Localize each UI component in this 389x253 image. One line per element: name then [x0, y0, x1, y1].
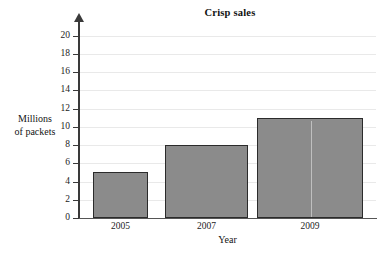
- y-axis-tick: [73, 127, 79, 128]
- chart-figure: Crisp sales 02468101214161820 2005200720…: [0, 0, 389, 253]
- y-axis-tick-label: 4: [48, 177, 70, 187]
- plot-area: [79, 22, 376, 218]
- y-axis-tick: [73, 109, 79, 110]
- bar: [93, 172, 148, 218]
- y-axis-tick: [73, 218, 79, 219]
- bar: [165, 145, 248, 218]
- y-axis-title-line-1: Millions: [2, 113, 68, 126]
- y-axis-tick-label: 2: [48, 195, 70, 205]
- y-axis-tick-label: 18: [48, 49, 70, 59]
- y-axis-tick: [73, 72, 79, 73]
- gridline: [79, 36, 376, 37]
- y-axis-tick-label: 6: [48, 158, 70, 168]
- y-axis-tick-label: 14: [48, 85, 70, 95]
- x-axis-line: [78, 218, 377, 219]
- y-axis-tick-label: 12: [48, 104, 70, 114]
- x-axis-tick-label: 2009: [237, 221, 383, 231]
- gridline: [79, 109, 376, 110]
- y-axis-tick: [73, 145, 79, 146]
- bar-seam: [311, 121, 312, 217]
- y-axis-tick: [73, 182, 79, 183]
- y-axis-line: [78, 21, 80, 218]
- y-axis-tick: [73, 90, 79, 91]
- y-axis-arrow-icon: [74, 13, 84, 22]
- y-axis-tick-label: 20: [48, 31, 70, 41]
- y-axis-tick-label: 8: [48, 140, 70, 150]
- gridline: [79, 90, 376, 91]
- y-axis-tick: [73, 54, 79, 55]
- chart-title: Crisp sales: [150, 7, 310, 18]
- y-axis-title: Millions of packets: [2, 113, 68, 138]
- y-axis-tick-label: 0: [48, 213, 70, 223]
- y-axis-title-line-2: of packets: [2, 126, 68, 139]
- y-axis-tick: [73, 163, 79, 164]
- bar: [257, 118, 363, 218]
- gridline: [79, 72, 376, 73]
- y-axis-tick: [73, 36, 79, 37]
- y-axis-tick-label: 16: [48, 67, 70, 77]
- y-axis-tick: [73, 200, 79, 201]
- x-axis-title: Year: [79, 234, 376, 245]
- gridline: [79, 54, 376, 55]
